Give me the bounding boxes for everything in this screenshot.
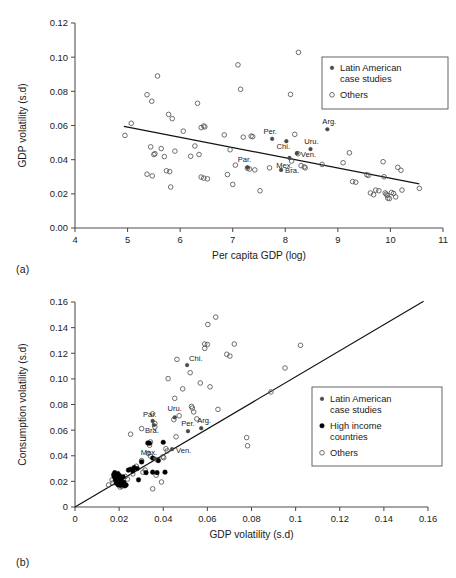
data-point	[381, 159, 386, 164]
data-point	[373, 188, 378, 193]
series-others	[106, 315, 303, 491]
data-point-label-par: Par.	[143, 410, 157, 419]
data-point	[174, 434, 179, 439]
data-point	[166, 376, 171, 381]
data-point-label-per: Per.	[181, 419, 195, 428]
data-point	[135, 466, 140, 471]
data-point	[246, 166, 250, 170]
x-axis-tick-label: 0.08	[242, 513, 260, 524]
data-point	[267, 166, 272, 171]
data-point	[186, 429, 190, 433]
data-point	[232, 342, 237, 347]
x-axis-tick-label: 8	[283, 234, 288, 245]
data-point	[173, 149, 178, 154]
x-axis-title: Per capita GDP (log)	[212, 250, 306, 261]
data-point	[213, 315, 218, 320]
data-point	[155, 470, 160, 475]
data-point-label-mex: Mex.	[276, 161, 292, 170]
data-point	[347, 151, 352, 156]
data-point	[228, 147, 233, 152]
data-point	[170, 116, 175, 121]
data-point	[123, 133, 128, 138]
data-point	[145, 172, 150, 177]
data-point	[159, 480, 164, 485]
y-axis-tick-label: 0.02	[50, 188, 68, 199]
data-point	[238, 87, 243, 92]
data-point	[136, 478, 141, 483]
legend-label-0: Latin American	[340, 63, 402, 73]
data-point	[288, 92, 293, 97]
data-point	[350, 179, 355, 184]
data-point	[150, 487, 155, 492]
data-point	[198, 381, 203, 386]
chart-legend: Latin Americancase studiesOthers	[322, 57, 448, 109]
data-point	[128, 432, 133, 437]
x-axis-tick-label: 0.14	[375, 513, 393, 524]
x-axis-tick-label: 0.16	[419, 513, 437, 524]
chart-panel-b: 00.020.040.060.080.100.120.140.1600.020.…	[0, 262, 456, 578]
data-point	[288, 156, 292, 160]
x-axis-title: GDP volatility (s.d)	[209, 529, 293, 540]
data-point-label-chi: Chi.	[189, 354, 203, 363]
data-point	[144, 470, 149, 475]
data-point	[295, 151, 299, 155]
scatter-plot-consumption-volatility: 00.020.040.060.080.100.120.140.1600.020.…	[0, 262, 456, 578]
data-point	[151, 419, 155, 423]
data-point	[150, 470, 155, 475]
data-point	[417, 186, 422, 191]
x-axis-tick-label: 5	[125, 234, 130, 245]
data-point	[170, 447, 174, 451]
y-axis-tick-label: 0.04	[50, 154, 68, 165]
data-point	[216, 407, 221, 412]
y-axis-tick-label: 0.06	[50, 120, 68, 131]
y-axis-tick-label: 0.08	[50, 399, 68, 410]
y-axis-title: GDP volatility (s.d)	[17, 83, 28, 167]
data-point	[199, 426, 203, 430]
data-point	[167, 169, 172, 174]
y-axis-tick-label: 0.12	[50, 17, 68, 28]
data-point	[181, 129, 186, 134]
data-point	[225, 172, 230, 177]
data-point	[166, 112, 171, 117]
x-axis-tick-label: 0.1	[289, 513, 302, 524]
data-point	[147, 441, 152, 446]
legend-label-0: case studies	[330, 405, 382, 415]
data-point	[258, 188, 263, 193]
data-point	[153, 457, 157, 461]
data-point-label-per: Per.	[263, 127, 277, 136]
legend-label-1: countries	[330, 432, 368, 442]
y-axis-tick-label: 0.12	[50, 348, 68, 359]
data-point	[185, 363, 189, 367]
data-point	[193, 144, 198, 149]
data-point	[270, 137, 274, 141]
data-point	[252, 168, 257, 173]
legend-label-1: High income	[330, 421, 382, 431]
data-point-label-ven: Ven.	[301, 150, 316, 159]
data-point-label-arg: Arg.	[197, 416, 211, 425]
data-point-label-arg: Arg.	[322, 117, 336, 126]
chart-panel-a: 0.000.020.040.060.080.100.124567891011Pe…	[0, 0, 456, 290]
x-axis-tick-label: 4	[72, 234, 77, 245]
data-point	[162, 154, 167, 159]
panel-b-tag: (b)	[16, 556, 29, 568]
y-axis-tick-label: 0.06	[50, 425, 68, 436]
data-point	[121, 475, 126, 480]
data-point	[164, 168, 169, 173]
y-axis-tick-label: 0.16	[50, 296, 68, 307]
legend-label-0: Latin American	[330, 394, 392, 404]
y-axis-tick-label: 0	[63, 501, 68, 512]
data-point	[188, 154, 193, 159]
data-point	[206, 322, 211, 327]
data-point	[230, 182, 235, 187]
x-axis-tick-label: 0.04	[154, 513, 172, 524]
data-point	[377, 188, 382, 193]
scatter-plot-gdp-volatility: 0.000.020.040.060.080.100.124567891011Pe…	[0, 0, 456, 290]
x-axis-tick-label: 0.02	[110, 513, 128, 524]
data-point	[180, 387, 185, 392]
data-point	[283, 366, 288, 371]
legend-marker-1	[320, 424, 325, 429]
data-point	[139, 426, 144, 431]
x-axis-tick-label: 6	[178, 234, 183, 245]
figure-container: 0.000.020.040.060.080.100.124567891011Pe…	[0, 0, 456, 578]
data-point	[292, 132, 297, 137]
